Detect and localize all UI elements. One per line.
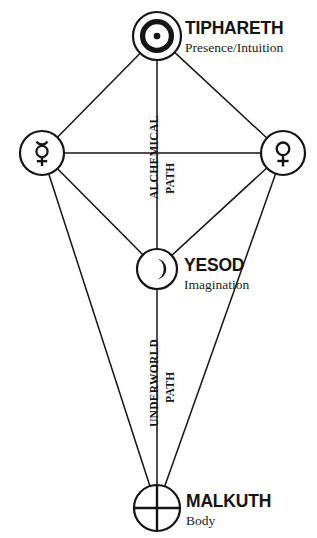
- node-title-tiphareth: TIPHARETH: [185, 18, 283, 37]
- node-subtitle-yesod: Imagination: [184, 278, 250, 292]
- node-label-yesod: YESOD Imagination: [184, 255, 250, 292]
- edge-tiphareth-to-mercury: [57, 52, 141, 138]
- node-circle-mercury[interactable]: [20, 131, 64, 175]
- path-label-underworld-primary: UNDERWORLD: [148, 339, 160, 427]
- node-circle-yesod[interactable]: [137, 249, 177, 289]
- path-label-alchemical-primary: ALCHEMICAL: [148, 115, 160, 199]
- edge-venus-to-yesod: [171, 167, 268, 256]
- node-title-malkuth: MALKUTH: [186, 491, 271, 510]
- sun-center-dot: [154, 33, 161, 40]
- node-venus[interactable]: [261, 131, 305, 175]
- node-circle-venus[interactable]: [261, 131, 305, 175]
- node-label-malkuth: MALKUTH Body: [186, 491, 279, 528]
- node-malkuth[interactable]: [134, 485, 180, 531]
- edge-tiphareth-to-venus: [174, 52, 268, 139]
- edge-mercury-to-malkuth: [48, 173, 150, 487]
- node-label-tiphareth: TIPHARETH Presence/Intuition: [185, 18, 292, 55]
- tree-of-life-diagram: TIPHARETH Presence/Intuition YESOD Imagi…: [0, 0, 317, 538]
- node-mercury[interactable]: [20, 131, 64, 175]
- nodes-layer: [20, 12, 305, 531]
- node-yesod[interactable]: [137, 249, 177, 289]
- edge-mercury-to-yesod: [57, 168, 144, 256]
- node-tiphareth[interactable]: [133, 12, 181, 60]
- path-label-alchemical-secondary: PATH: [164, 163, 176, 194]
- edge-venus-to-malkuth: [164, 173, 276, 487]
- node-title-yesod: YESOD: [184, 255, 244, 274]
- node-subtitle-tiphareth: Presence/Intuition: [185, 41, 292, 55]
- diagram-canvas: [0, 0, 317, 538]
- node-subtitle-malkuth: Body: [186, 514, 279, 528]
- path-label-underworld-secondary: PATH: [164, 372, 176, 403]
